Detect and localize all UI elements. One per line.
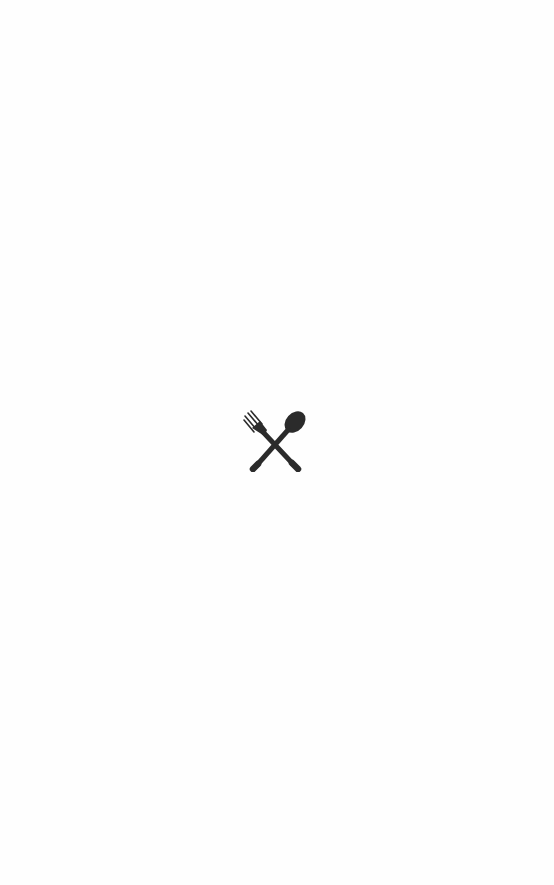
app-logo: Fork and spoon bbox=[243, 410, 309, 472]
fork-and-spoon-crossed-icon bbox=[243, 410, 309, 472]
splash-screen: Fork and spoon bbox=[0, 0, 554, 885]
